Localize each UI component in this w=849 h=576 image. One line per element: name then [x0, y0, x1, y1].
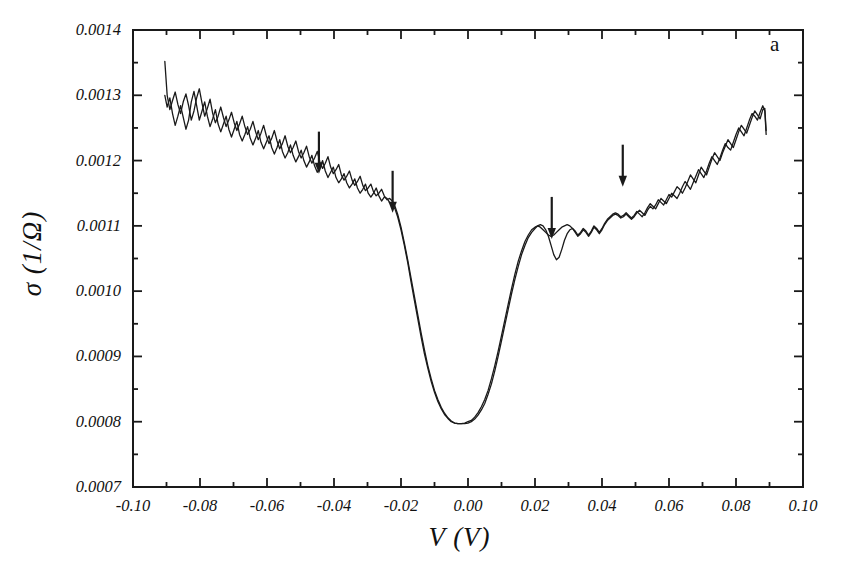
curve-trace-1	[165, 61, 766, 423]
y-tick-label: 0.0009	[0, 346, 121, 366]
x-axis-title: V (V)	[0, 522, 849, 553]
axis-ticks	[133, 30, 803, 487]
x-axis-title-text: V (V)	[358, 522, 490, 552]
plot-frame	[133, 30, 803, 487]
curve-trace-2	[165, 91, 766, 423]
conductance-vs-voltage-plot	[0, 0, 849, 576]
panel-label: a	[770, 32, 779, 57]
x-tick-label: 0.10	[758, 496, 848, 516]
y-tick-label: 0.0014	[0, 20, 121, 40]
y-tick-label: 0.0013	[0, 85, 121, 105]
figure-panel-a: 0.00070.00080.00090.00100.00110.00120.00…	[0, 0, 849, 576]
arrow-head-3	[619, 176, 627, 187]
data-curves	[165, 61, 766, 423]
y-tick-label: 0.0008	[0, 412, 121, 432]
y-tick-label: 0.0007	[0, 477, 121, 497]
axes-frame	[133, 30, 803, 487]
y-axis-title: σ (1/Ω)	[17, 164, 48, 344]
annotation-arrows	[315, 132, 627, 239]
